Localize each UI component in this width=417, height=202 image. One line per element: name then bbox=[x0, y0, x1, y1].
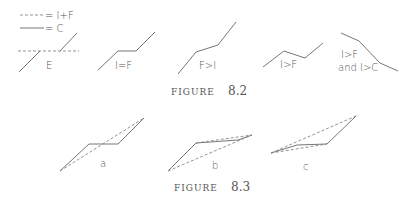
panel-c: c bbox=[271, 116, 356, 172]
panel-b: b bbox=[168, 135, 252, 171]
panel-e-lower-segment bbox=[19, 51, 40, 72]
caption-8-2-word: FIGURE bbox=[171, 87, 215, 97]
legend-solid-label: = C bbox=[45, 23, 64, 34]
caption-8-2-number: 8.2 bbox=[228, 84, 247, 98]
panel-e: E bbox=[18, 33, 79, 72]
panel-i-equals-f-label: I=F bbox=[115, 60, 132, 71]
figure-canvas: = I+F = C E I=F F>I I>F I>F and I>C FIGU… bbox=[0, 0, 417, 202]
panel-f-greater-i: F>I bbox=[178, 22, 236, 74]
panel-c-dashed-line-long bbox=[271, 116, 356, 153]
panel-e-label: E bbox=[46, 60, 52, 71]
panel-i-greater-f-and-c-label-line1: I>F bbox=[341, 49, 358, 60]
legend-dashed-label: = I+F bbox=[45, 10, 74, 21]
caption-8-3-word: FIGURE bbox=[174, 183, 218, 193]
panel-c-label: c bbox=[303, 161, 309, 172]
caption-8-3-number: 8.3 bbox=[231, 180, 250, 194]
panel-a: a bbox=[60, 118, 144, 171]
panel-i-greater-f-and-c: I>F and I>C bbox=[338, 33, 398, 73]
panel-i-equals-f: I=F bbox=[98, 32, 155, 71]
legend: = I+F = C bbox=[20, 10, 74, 34]
panel-b-dashed-line-long bbox=[168, 135, 252, 171]
caption-figure-8-3: FIGURE 8.3 bbox=[174, 180, 250, 194]
panel-i-greater-f-label: I>F bbox=[280, 59, 297, 70]
panel-i-greater-f: I>F bbox=[263, 43, 323, 70]
panel-a-label: a bbox=[100, 158, 106, 169]
caption-figure-8-2: FIGURE 8.2 bbox=[171, 84, 247, 98]
panel-f-greater-i-label: F>I bbox=[199, 60, 216, 71]
panel-e-upper-segment bbox=[60, 33, 77, 51]
panel-i-greater-f-and-c-label-line2: and I>C bbox=[338, 62, 378, 73]
panel-b-label: b bbox=[212, 160, 218, 171]
